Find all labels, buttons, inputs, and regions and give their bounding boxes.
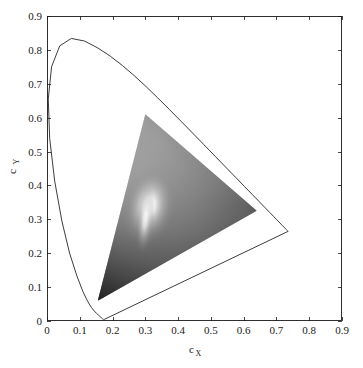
y-axis-tick-labels: 00.10.20.30.40.50.60.70.80.9 <box>28 10 42 327</box>
y-tick-label: 0.5 <box>28 146 42 158</box>
y-axis-title-subscript: Y <box>12 159 21 165</box>
y-tick-label: 0.4 <box>28 179 42 191</box>
y-tick-label: 0.3 <box>28 213 42 225</box>
chromaticity-diagram-figure: 00.10.20.30.40.50.60.70.80.9 00.10.20.30… <box>0 0 363 368</box>
y-tick-label: 0.1 <box>28 281 42 293</box>
x-axis-title-base: c <box>189 343 194 355</box>
x-tick-label: 0.6 <box>237 324 251 336</box>
y-tick-label: 0.2 <box>28 247 42 259</box>
x-tick-label: 0.2 <box>106 324 120 336</box>
y-axis-title: c Y <box>6 159 21 174</box>
y-tick-label: 0.6 <box>28 112 42 124</box>
y-axis-title-base: c <box>6 169 18 174</box>
x-tick-label: 0.4 <box>171 324 185 336</box>
x-axis-title-subscript: X <box>196 349 202 358</box>
x-tick-label: 0.8 <box>302 324 316 336</box>
x-tick-label: 0.7 <box>270 324 284 336</box>
y-tick-label: 0 <box>37 315 43 327</box>
x-tick-label: 0.5 <box>204 324 218 336</box>
x-tick-label: 0 <box>44 324 50 336</box>
x-tick-label: 0.1 <box>73 324 87 336</box>
y-tick-label: 0.8 <box>28 44 42 56</box>
chromaticity-plot: 00.10.20.30.40.50.60.70.80.9 00.10.20.30… <box>0 0 363 368</box>
y-tick-label: 0.9 <box>28 10 42 22</box>
x-tick-label: 0.3 <box>138 324 152 336</box>
y-tick-label: 0.7 <box>28 78 42 90</box>
x-tick-label: 0.9 <box>335 324 349 336</box>
x-axis-title: c X <box>189 343 201 358</box>
x-axis-tick-labels: 00.10.20.30.40.50.60.70.80.9 <box>44 324 349 336</box>
